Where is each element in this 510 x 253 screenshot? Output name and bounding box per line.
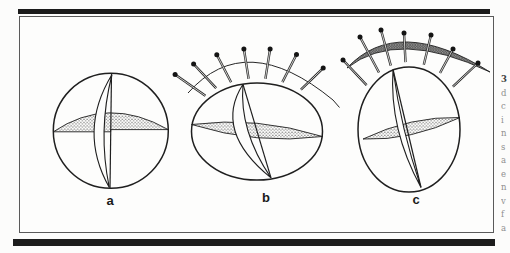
caption-fragment: v (501, 196, 510, 209)
caption-fragment: d (501, 88, 510, 101)
sphere-c-diagram (341, 28, 491, 193)
sphere-a-diagram (53, 73, 168, 188)
pins-b (173, 47, 326, 96)
sphere-b-diagram (173, 47, 340, 181)
pin-icon (453, 61, 481, 87)
pin-arc-b (188, 62, 340, 107)
caption-fragment: a (501, 223, 510, 236)
caption-fragment: a (501, 155, 510, 168)
caption-fragment: f (501, 209, 510, 222)
pin-icon (214, 52, 231, 82)
caption-fragment: 3 (501, 74, 510, 87)
pin-icon (265, 47, 272, 79)
caption-fragment: i (501, 115, 510, 128)
panel-label-a: a (102, 194, 118, 208)
bottom-rule (13, 239, 495, 246)
figure-diagram (0, 0, 510, 253)
pin-icon (282, 52, 299, 82)
caption-fragment: n (501, 128, 510, 141)
pin-icon (191, 62, 216, 89)
panel-label-b: b (258, 191, 274, 205)
meridian-line-a (110, 74, 112, 189)
caption-fragment: n (501, 182, 510, 195)
scanned-figure-page: a b c 3 d c i n s a e n v f a (0, 0, 510, 253)
caption-fragment: e (501, 169, 510, 182)
pin-icon (358, 35, 380, 73)
caption-fragment: c (501, 101, 510, 114)
panel-label-c: c (408, 193, 424, 207)
equator-band-c (363, 117, 460, 139)
pin-icon (301, 66, 326, 90)
caption-fragment: s (501, 142, 510, 155)
